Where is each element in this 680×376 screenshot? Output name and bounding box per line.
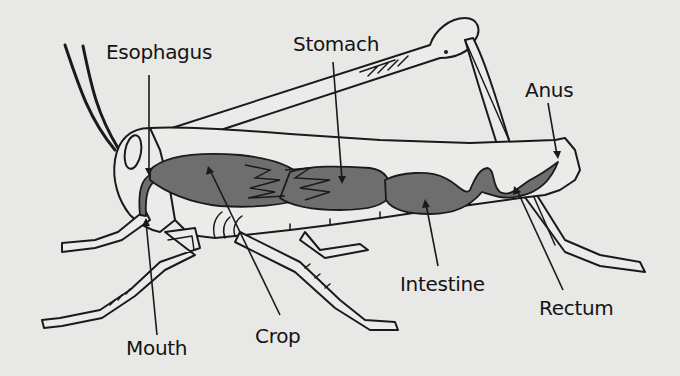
label-anus: Anus (525, 80, 573, 100)
label-rectum: Rectum (539, 298, 614, 318)
label-intestine: Intestine (400, 274, 485, 294)
stomach-organ (280, 167, 390, 210)
label-crop: Crop (255, 326, 300, 346)
label-mouth: Mouth (126, 338, 187, 358)
middle-legs (235, 232, 398, 330)
label-stomach: Stomach (293, 34, 379, 54)
front-legs (42, 210, 200, 328)
diagram-canvas: Esophagus Stomach Anus Mouth Crop Intest… (0, 0, 680, 376)
label-esophagus: Esophagus (106, 42, 212, 62)
